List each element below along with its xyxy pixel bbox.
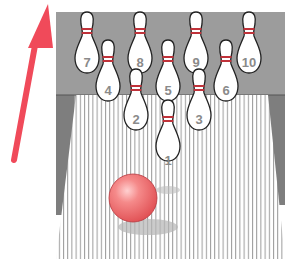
svg-text:1: 1 <box>164 153 171 168</box>
svg-text:7: 7 <box>83 55 90 70</box>
arrow-up-icon <box>14 4 53 160</box>
svg-text:5: 5 <box>164 83 171 98</box>
svg-text:10: 10 <box>242 55 256 70</box>
svg-text:8: 8 <box>136 55 143 70</box>
svg-text:9: 9 <box>192 55 199 70</box>
svg-text:6: 6 <box>222 83 229 98</box>
svg-text:4: 4 <box>104 83 112 98</box>
bowling-ball <box>109 174 157 222</box>
svg-text:2: 2 <box>132 112 139 127</box>
svg-text:3: 3 <box>195 112 202 127</box>
bowling-illustration: 7 8 9 10 4 5 6 2 3 1 <box>0 0 293 259</box>
